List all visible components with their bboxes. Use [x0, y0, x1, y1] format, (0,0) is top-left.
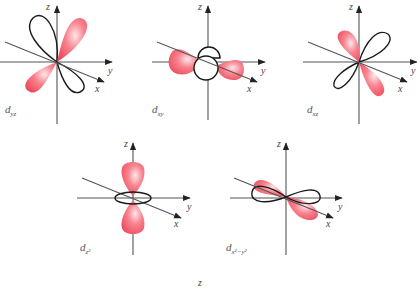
orbital-panel-dxz: z y x dxz	[303, 1, 417, 124]
d-orbitals-diagram: z y x dyz z y x dxy z y x dxz	[0, 0, 417, 289]
x-axis-label: x	[397, 83, 403, 94]
lobe-shaded-upper-left	[338, 31, 360, 62]
orbital-label-dxy: dxy	[152, 103, 165, 118]
x-axis-label: x	[173, 218, 179, 229]
orbital-panel-dxy: z y x dxy	[152, 1, 266, 120]
orbital-label-dyz: dyz	[5, 103, 17, 118]
lobe-outline-front	[194, 56, 218, 80]
z-axis-label: z	[348, 1, 353, 12]
lobe-outline-upper-right	[359, 32, 390, 62]
y-axis-label: y	[410, 65, 416, 76]
x-axis-label: x	[325, 218, 331, 229]
y-axis-label: y	[107, 65, 113, 76]
z-axis-label: z	[197, 1, 202, 12]
y-axis-label: y	[260, 65, 266, 76]
orbital-panel-dz2: z y x dz²	[77, 138, 192, 256]
orbital-label-dx2-y2: dx²−y²	[226, 241, 248, 256]
lobe-shaded-right	[216, 60, 244, 80]
orbital-label-dxz: dxz	[307, 103, 319, 118]
lobe-shaded-lower-left	[25, 62, 57, 93]
z-axis-label: z	[123, 138, 128, 149]
x-axis-label: x	[246, 83, 252, 94]
z-axis-label: z	[45, 1, 50, 12]
y-axis-label: y	[186, 201, 192, 212]
orbital-label-dz2: dz²	[80, 241, 91, 256]
z-axis-label: z	[276, 138, 281, 149]
orbital-panel-dx2-y2: z y x dx²−y²	[226, 138, 343, 256]
x-axis-label: x	[94, 83, 100, 94]
lobe-shaded-upper	[121, 162, 144, 196]
lobe-shaded-upper-right	[57, 18, 87, 62]
y-axis-label: y	[337, 201, 343, 212]
lobe-shaded-lower	[121, 200, 144, 234]
stray-z-label: z	[197, 277, 202, 288]
lobe-outline-lower-right	[57, 62, 84, 93]
lobe-outline-upper-left	[30, 16, 58, 62]
orbital-panel-dyz: z y x dyz	[0, 1, 113, 124]
lobe-outline-lower-left	[334, 62, 359, 89]
